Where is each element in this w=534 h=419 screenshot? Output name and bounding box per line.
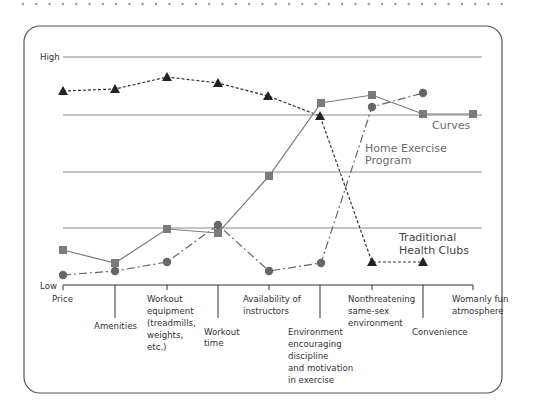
y-axis-high-label: High bbox=[40, 52, 60, 62]
x-label-workout-equipment: Workout equipment (treadmills, weights, … bbox=[147, 294, 199, 352]
chart-frame bbox=[24, 26, 502, 393]
series-label-traditional-health-clubs: Traditional Health Clubs bbox=[398, 231, 469, 257]
x-label-amenities: Amenities bbox=[94, 321, 137, 331]
x-label-workout-time: Workout time bbox=[204, 327, 242, 348]
x-label-nonthreatening-environment: Nonthreatening same-sex environment bbox=[348, 294, 418, 328]
series-home-exercise-program bbox=[59, 89, 427, 279]
x-label-convenience: Convenience bbox=[412, 327, 468, 337]
series-label-curves: Curves bbox=[432, 119, 470, 132]
triangle-markers bbox=[58, 72, 428, 266]
x-label-environment-discipline: Environment encouraging discipline and m… bbox=[288, 327, 356, 385]
top-dotted-border bbox=[22, 3, 503, 5]
series-traditional-health-clubs bbox=[58, 72, 428, 266]
series-label-home-exercise: Home Exercise Program bbox=[365, 142, 450, 167]
x-axis-labels: Price Amenities Workout equipment (tread… bbox=[52, 294, 511, 385]
x-label-price: Price bbox=[52, 294, 73, 304]
x-label-availability-instructors: Availability of instructors bbox=[243, 294, 304, 316]
strategy-canvas-chart: High Low Price Amenities Workout equipme… bbox=[0, 0, 534, 419]
y-axis-low-label: Low bbox=[40, 281, 57, 291]
circle-markers bbox=[59, 89, 427, 279]
